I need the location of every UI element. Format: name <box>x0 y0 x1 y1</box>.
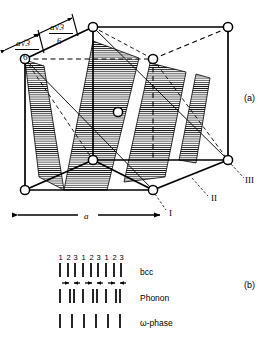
row-phonon: Phonon <box>60 289 170 303</box>
omega-ticks <box>60 314 120 328</box>
plane-number: 1 <box>105 253 109 262</box>
dimension-numerator-2: a√3 <box>50 22 64 32</box>
figure-container: a√3 6 a√3 6 a I II III (a) <box>0 0 273 342</box>
plane-number: 2 <box>113 253 117 262</box>
plane-number: 1 <box>82 253 86 262</box>
phonon-ticks <box>60 289 120 303</box>
row-label-phonon: Phonon <box>140 293 170 303</box>
atom-corner <box>20 185 29 194</box>
row-label-bcc: bcc <box>140 267 154 277</box>
edge-length-indicator: a <box>18 208 160 222</box>
plane-number-row: 1 2 3 1 2 3 1 2 3 <box>59 253 124 262</box>
atom-corner <box>88 155 97 164</box>
atom-corner <box>148 54 157 63</box>
edge-length-label: a <box>84 211 89 221</box>
atom-corner <box>148 185 157 194</box>
shaded-plane-4 <box>179 74 210 163</box>
row-omega-phase: ω-phase <box>60 314 173 328</box>
dimension-denominator-1: 6 <box>23 52 28 62</box>
dimension-numerator-1: a√3 <box>16 38 30 48</box>
row-label-omega-phase: ω-phase <box>140 318 173 328</box>
plane-number: 3 <box>97 253 101 262</box>
bcc-ticks <box>60 263 121 277</box>
hidden-edge-back-right <box>153 28 228 59</box>
vertex-label-I: I <box>169 208 172 218</box>
crystal-structure-figure: a√3 6 a√3 6 a I II III (a) <box>0 0 273 342</box>
vertex-label-III: III <box>245 175 254 185</box>
vertex-label-II: II <box>211 193 217 203</box>
panel-tag-a: (a) <box>244 93 255 103</box>
atom-body-centre <box>113 107 122 116</box>
plane-number: 1 <box>59 253 63 262</box>
plane-number: 3 <box>120 253 124 262</box>
dimension-denominator-2: 6 <box>57 36 62 46</box>
atom-corner <box>223 22 232 31</box>
panel-a: a√3 6 a√3 6 a I II III (a) <box>5 14 255 222</box>
atom-corner <box>223 155 232 164</box>
plane-number: 2 <box>67 253 71 262</box>
atom-corner <box>88 22 97 31</box>
panel-tag-b: (b) <box>244 280 255 290</box>
panel-b: 1 2 3 1 2 3 1 2 3 bcc <box>59 253 256 328</box>
row-bcc: bcc <box>60 263 154 277</box>
plane-number: 2 <box>90 253 94 262</box>
dimension-tick <box>72 14 78 36</box>
dimension-label-2: a√3 6 <box>49 22 73 46</box>
plane-number: 3 <box>74 253 78 262</box>
